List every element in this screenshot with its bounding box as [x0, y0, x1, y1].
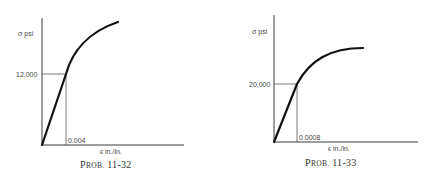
stress-strain-curve: [274, 48, 363, 142]
figure-prob-11-32: σ psi 12,000 0.004 ϵ in./in. PROB. 11-32: [16, 18, 184, 170]
x-axis-label: ϵ in./in.: [100, 148, 122, 155]
x-tick-label: 0.0008: [299, 134, 321, 141]
figure-canvas: σ psi 12,000 0.004 ϵ in./in. PROB. 11-32…: [0, 0, 433, 177]
x-tick-label: 0.004: [68, 137, 86, 144]
y-axis-label: σ psi: [18, 30, 34, 38]
stress-strain-curve: [42, 22, 118, 145]
x-axis-label: ϵ in./in.: [328, 145, 350, 152]
figure-prob-11-33: σ psi 20,000 0.0008 ϵ in./in. PROB. 11-3…: [249, 15, 418, 168]
y-axis-label: σ psi: [252, 28, 268, 36]
figure-caption: PROB. 11-32: [80, 159, 132, 170]
y-tick-label: 12,000: [16, 71, 38, 78]
figure-caption: PROB. 11-33: [305, 157, 357, 168]
y-tick-label: 20,000: [249, 81, 271, 88]
